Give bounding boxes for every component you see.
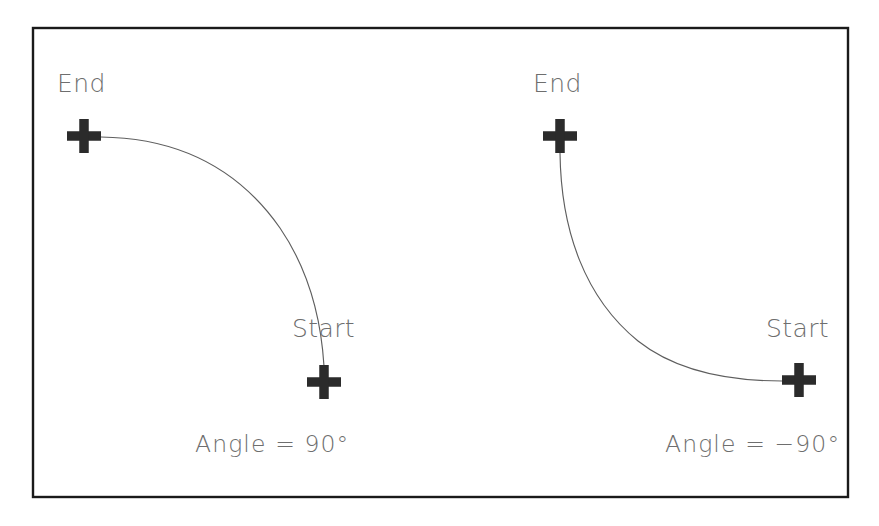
- figure-root: End Start Angle = 90° End Start: [0, 0, 879, 526]
- diagram-canvas: End Start Angle = 90° End Start: [0, 0, 879, 526]
- angle-caption-left: Angle = 90°: [195, 430, 349, 458]
- angle-caption-right: Angle = −90°: [665, 430, 840, 458]
- start-label-right: Start: [766, 314, 829, 343]
- end-label-right: End: [533, 69, 582, 98]
- start-label-left: Start: [292, 314, 355, 343]
- outer-border: [33, 28, 848, 497]
- end-label-left: End: [57, 69, 106, 98]
